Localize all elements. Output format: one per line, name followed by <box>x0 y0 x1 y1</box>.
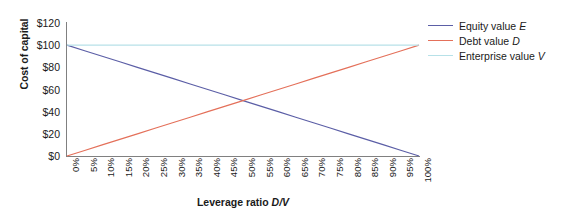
x-axis-title: Leverage ratio D/V <box>66 196 420 208</box>
y-tick-label: $20 <box>14 129 60 140</box>
x-tick-label: 75% <box>335 158 345 177</box>
legend-item-1[interactable]: Debt value D <box>428 35 561 47</box>
plot-area <box>66 22 420 157</box>
x-tick-label: 70% <box>317 158 327 177</box>
x-tick-label: 95% <box>405 158 415 177</box>
x-tick-label: 40% <box>212 158 222 177</box>
legend-label-variable: V <box>538 50 545 62</box>
x-tick-label: 90% <box>388 158 398 177</box>
x-axis-ticks <box>67 157 419 158</box>
legend-label-text: Enterprise value <box>459 50 538 62</box>
legend-line-swatch <box>428 50 453 61</box>
x-tick-label: 50% <box>247 158 257 177</box>
legend-label-text: Equity value <box>459 20 519 32</box>
legend-label: Debt value D <box>459 35 520 47</box>
x-tick-label: 20% <box>141 158 151 177</box>
data-series-group <box>67 45 419 156</box>
legend-line-swatch <box>428 20 453 31</box>
legend-label-variable: D <box>512 35 520 47</box>
legend-label-variable: E <box>519 20 526 32</box>
x-tick-label: 0% <box>71 158 81 172</box>
x-tick-label: 65% <box>300 158 310 177</box>
x-tick-label: 35% <box>194 158 204 177</box>
legend-label: Enterprise value V <box>459 50 545 62</box>
y-tick-label: $60 <box>14 85 60 96</box>
x-axis-title-variable: D/V <box>272 196 290 208</box>
x-tick-label: 55% <box>265 158 275 177</box>
x-tick-label: 30% <box>177 158 187 177</box>
x-tick-label: 15% <box>124 158 134 177</box>
x-axis-title-text: Leverage ratio <box>197 196 272 208</box>
legend-item-2[interactable]: Enterprise value V <box>428 50 561 62</box>
y-tick-label: $80 <box>14 62 60 73</box>
chart-legend: Equity value EDebt value DEnterprise val… <box>428 20 561 65</box>
legend-label: Equity value E <box>459 20 526 32</box>
plot-svg <box>66 22 420 157</box>
x-tick-label: 5% <box>89 158 99 172</box>
x-tick-label: 60% <box>282 158 292 177</box>
x-tick-label: 85% <box>370 158 380 177</box>
x-tick-label: 45% <box>229 158 239 177</box>
x-tick-label: 80% <box>353 158 363 177</box>
legend-label-text: Debt value <box>459 35 512 47</box>
y-tick-label: $40 <box>14 107 60 118</box>
x-tick-label: 100% <box>423 158 433 183</box>
chart-figure: Cost of capital $0$20$40$60$80$100$120 0… <box>0 0 561 219</box>
x-axis-tick-labels: 0%5%10%15%20%25%30%35%40%45%50%55%60%65%… <box>66 158 420 194</box>
x-tick-label: 25% <box>159 158 169 177</box>
y-tick-label: $100 <box>14 40 60 51</box>
legend-item-0[interactable]: Equity value E <box>428 20 561 32</box>
legend-line-swatch <box>428 35 453 46</box>
y-tick-label: $120 <box>14 18 60 29</box>
y-axis-tick-labels: $0$20$40$60$80$100$120 <box>14 0 60 219</box>
y-tick-label: $0 <box>14 151 60 162</box>
x-tick-label: 10% <box>106 158 116 177</box>
